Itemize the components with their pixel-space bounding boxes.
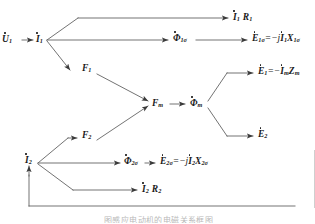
wire-phim-down (208, 108, 227, 136)
node-e1-equation: E1=−ImZm (258, 67, 299, 77)
node-e2sigma-sign: −j (179, 156, 188, 166)
wire-f2-to-fm (97, 106, 148, 140)
node-i1-symbol: I (36, 35, 40, 45)
node-phi2sigma-symbol: Φ (124, 157, 132, 167)
node-u1: U1 (2, 35, 12, 45)
node-e1-impedance-subscript: m (295, 69, 300, 76)
node-f2-subscript: 2 (88, 133, 91, 140)
node-e2-subscript: 2 (264, 132, 267, 139)
node-e1sigma-reactance-subscript: 1σ (293, 36, 299, 43)
node-i1: I1 (36, 35, 43, 45)
node-e1-symbol: E (258, 67, 264, 77)
wire-i2-down (38, 164, 73, 190)
node-e1sigma-sign: −j (271, 33, 280, 43)
node-e2sigma-equation: E2σ=−jI2X2σ (160, 157, 208, 167)
wire-i1-to-f1 (47, 41, 70, 70)
node-i2r2-current-subscript: 2 (146, 187, 149, 194)
node-phim-subscript: m (198, 101, 203, 108)
node-fm: Fm (152, 99, 163, 109)
node-i1r1-resistance-subscript: 1 (249, 15, 252, 22)
node-e2: E2 (258, 130, 267, 140)
node-u1-symbol: U (2, 35, 9, 45)
node-f2: F2 (82, 131, 91, 141)
node-phi1sigma-subscript: 1σ (181, 36, 187, 43)
wire-i1-up (47, 18, 78, 40)
node-u1-subscript: 1 (9, 37, 12, 44)
node-i2r2-current: I (142, 185, 146, 195)
wire-f1-to-fm (97, 74, 148, 101)
node-i2r2: I2R2 (142, 185, 161, 195)
node-e2-symbol: E (258, 130, 264, 140)
node-i1r1-current: I (233, 13, 237, 23)
node-e1sigma-current: I (280, 34, 284, 44)
node-i1-subscript: 1 (40, 37, 43, 44)
node-f1: F1 (82, 64, 91, 74)
node-f1-subscript: 1 (88, 66, 91, 73)
node-e1sigma-symbol: E (252, 34, 258, 44)
figure-caption: 图感应电动机的电磁关系框图 (104, 214, 309, 223)
page-edge-rule (314, 150, 315, 208)
node-e2sigma-reactance-subscript: 2σ (201, 159, 207, 166)
node-i2r2-resistance-subscript: 2 (158, 187, 161, 194)
node-i2-subscript: 2 (29, 158, 32, 165)
node-phim: Φm (190, 99, 202, 109)
node-phi1sigma: Φ1σ (173, 34, 187, 44)
node-phi1sigma-symbol: Φ (173, 34, 181, 44)
wire-phim-up (208, 73, 227, 101)
node-i1r1-current-subscript: 1 (237, 15, 240, 22)
node-e2sigma-symbol: E (160, 157, 166, 167)
diagram-canvas: U1 I1 I1R1 Φ1σ E1σ=−jI1X1σ F1 F2 Fm Φm E… (0, 0, 315, 224)
node-phi2sigma: Φ2σ (124, 157, 138, 167)
node-e1-current: I (280, 67, 284, 77)
node-i1r1: I1R1 (233, 13, 252, 23)
node-phi2sigma-subscript: 2σ (132, 159, 138, 166)
node-fm-subscript: m (158, 101, 163, 108)
node-e2sigma-current: I (188, 157, 192, 167)
wire-i2-up (38, 138, 68, 163)
node-phim-symbol: Φ (190, 99, 198, 109)
node-i2-symbol: I (25, 156, 29, 166)
node-e1sigma-equation: E1σ=−jI1X1σ (252, 34, 300, 44)
node-i2: I2 (25, 156, 32, 166)
